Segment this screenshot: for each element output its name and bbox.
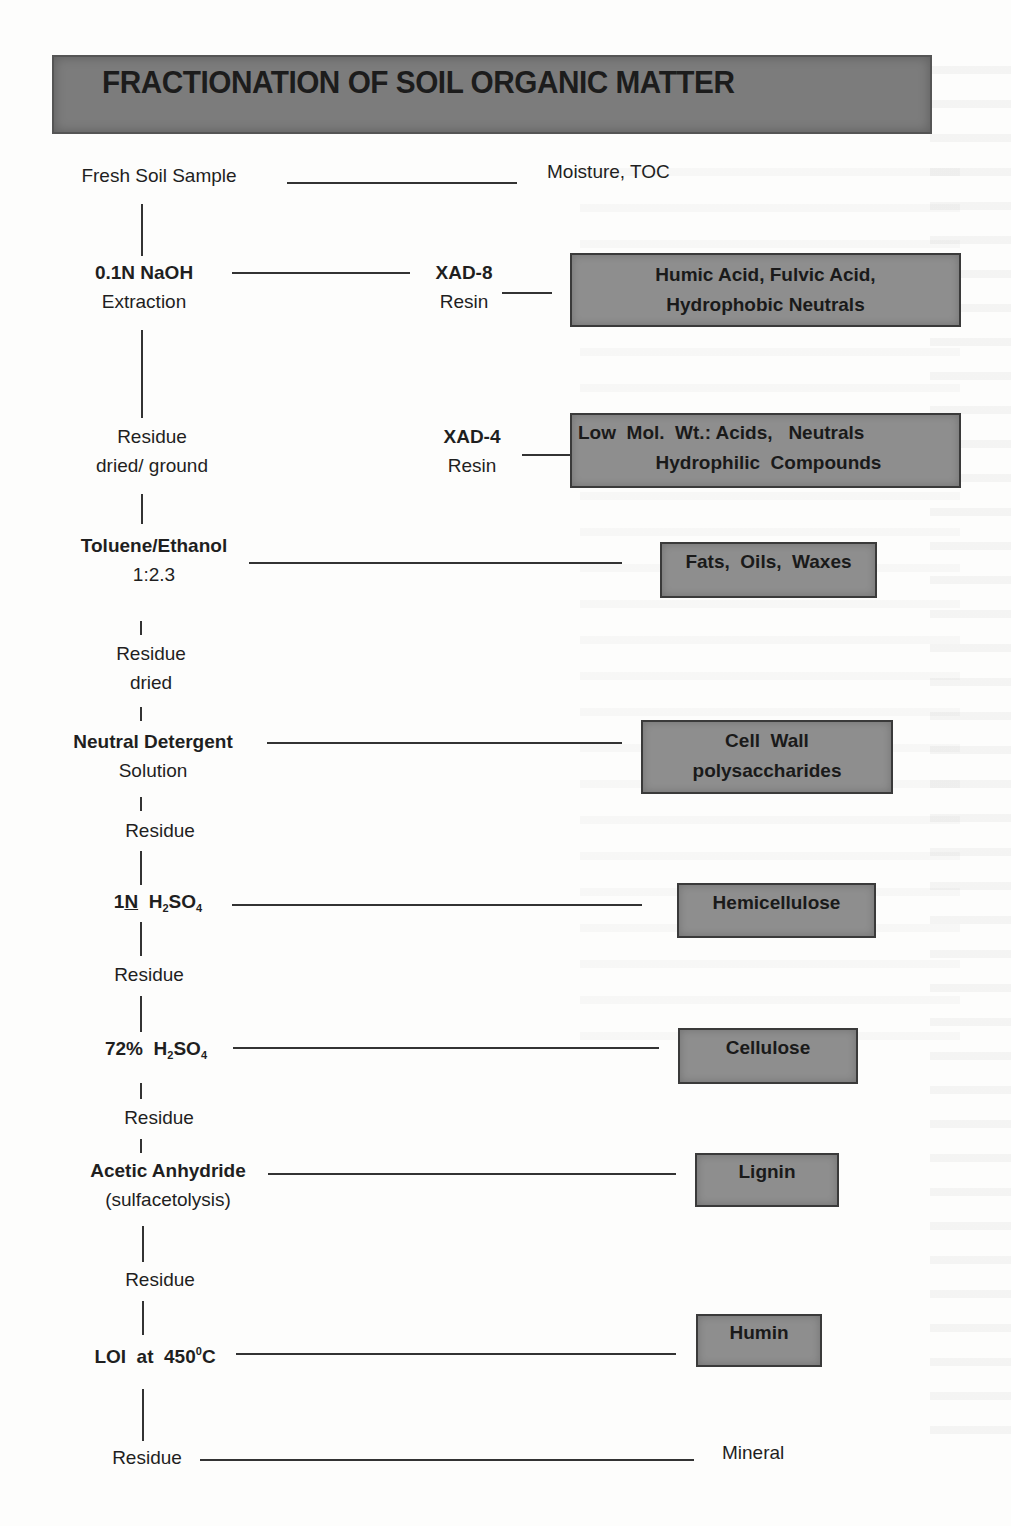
fraction-label: Humic Acid, Fulvic Acid,	[572, 260, 959, 290]
fraction-label: Hydrophobic Neutrals	[572, 290, 959, 320]
fraction-cell-wall: Cell Wall polysaccharides	[641, 720, 893, 794]
label-part: 4	[196, 902, 202, 914]
flow-line	[140, 1139, 142, 1153]
flow-line	[141, 330, 143, 418]
flow-line	[140, 707, 142, 721]
step-label: Toluene/Ethanol	[81, 531, 227, 560]
fraction-label: Cellulose	[680, 1033, 856, 1063]
fraction-label: Fats, Oils, Waxes	[662, 547, 875, 577]
step-residue: Residue	[125, 1265, 195, 1294]
fraction-hemicellulose: Hemicellulose	[677, 883, 876, 938]
step-sublabel: Solution	[73, 756, 232, 785]
connector-line	[233, 1047, 659, 1049]
fraction-label: Lignin	[697, 1157, 837, 1187]
step-residue: Residue	[124, 1103, 194, 1132]
flow-line	[140, 922, 142, 956]
label-part: 1	[114, 891, 125, 912]
step-label: 1N H2SO4	[114, 891, 202, 912]
flow-line	[140, 996, 142, 1032]
connector-line	[236, 1353, 676, 1355]
step-acetic-anhydride: Acetic Anhydride (sulfacetolysis)	[90, 1156, 246, 1214]
fraction-label: Hemicellulose	[679, 888, 874, 918]
step-loi-450c: LOI at 4500C	[94, 1337, 215, 1371]
step-toluene-ethanol: Toluene/Ethanol 1:2.3	[81, 531, 227, 589]
flow-line	[142, 1226, 144, 1262]
step-residue: Residue	[125, 816, 195, 845]
label-part: SO	[173, 1038, 200, 1059]
page-title: FRACTIONATION OF SOIL ORGANIC MATTER	[102, 65, 734, 101]
resin-sublabel: Resin	[435, 287, 492, 316]
flow-line	[141, 494, 143, 524]
flow-line	[140, 851, 142, 885]
step-label: Residue	[116, 639, 186, 668]
resin-sublabel: Resin	[443, 451, 500, 480]
title-banner: FRACTIONATION OF SOIL ORGANIC MATTER	[52, 55, 932, 134]
flow-line	[140, 621, 142, 635]
fraction-humic-fulvic: Humic Acid, Fulvic Acid, Hydrophobic Neu…	[570, 253, 961, 327]
label-part: 4	[201, 1049, 207, 1061]
step-sublabel: Extraction	[95, 287, 193, 316]
connector-line	[267, 742, 622, 744]
connector-line	[287, 182, 517, 184]
step-label: Residue	[125, 1265, 195, 1294]
flow-line	[140, 1083, 142, 1099]
label-part: SO	[169, 891, 196, 912]
output-mineral: Mineral	[722, 1438, 784, 1467]
step-label: 0.1N NaOH	[95, 258, 193, 287]
connector-line	[249, 562, 622, 564]
step-label: Residue	[125, 816, 195, 845]
resin-xad8: XAD-8 Resin	[435, 258, 492, 316]
step-residue-dried: Residue dried	[116, 639, 186, 697]
fraction-label: Cell Wall	[643, 726, 891, 756]
fraction-label: Low Mol. Wt.: Acids, Neutrals	[578, 418, 959, 448]
step-label: Residue	[124, 1103, 194, 1132]
label-part: LOI at 450	[94, 1346, 195, 1367]
connector-line	[268, 1173, 676, 1175]
fraction-fats-oils-waxes: Fats, Oils, Waxes	[660, 542, 877, 598]
label-part: H	[149, 891, 163, 912]
fraction-cellulose: Cellulose	[678, 1028, 858, 1084]
step-label: Residue	[96, 422, 208, 451]
connector-line	[502, 292, 552, 294]
step-sublabel: 1:2.3	[81, 560, 227, 589]
fraction-humin: Humin	[696, 1314, 822, 1367]
step-label: Fresh Soil Sample	[81, 165, 236, 186]
resin-label: XAD-8	[435, 258, 492, 287]
flow-line	[142, 1301, 144, 1335]
step-fresh-soil-sample: Fresh Soil Sample	[81, 161, 236, 190]
step-label: Acetic Anhydride	[90, 1156, 246, 1185]
connector-line	[232, 904, 642, 906]
fraction-lignin: Lignin	[695, 1153, 839, 1207]
step-label: Residue	[114, 960, 184, 989]
step-label: Residue	[112, 1443, 182, 1472]
fraction-low-mol-wt: Low Mol. Wt.: Acids, Neutrals Hydrophili…	[570, 413, 961, 488]
resin-xad4: XAD-4 Resin	[443, 422, 500, 480]
label-part: H	[154, 1038, 168, 1059]
step-residue-final: Residue	[112, 1443, 182, 1472]
label-part: N	[124, 891, 138, 912]
step-72pct-h2so4: 72% H2SO4	[105, 1034, 207, 1070]
label-part: C	[202, 1346, 216, 1367]
output-moisture-toc: Moisture, TOC	[547, 157, 670, 186]
label-part: 72%	[105, 1038, 154, 1059]
step-sublabel: (sulfacetolysis)	[90, 1185, 246, 1214]
step-residue: Residue	[114, 960, 184, 989]
step-label: 72% H2SO4	[105, 1038, 207, 1059]
step-label: Neutral Detergent	[73, 727, 232, 756]
step-neutral-detergent: Neutral Detergent Solution	[73, 727, 232, 785]
step-1n-h2so4: 1N H2SO4	[114, 887, 202, 923]
step-sublabel: dried	[116, 668, 186, 697]
flow-line	[141, 204, 143, 256]
step-label: LOI at 4500C	[94, 1346, 215, 1367]
step-sublabel: dried/ ground	[96, 451, 208, 480]
step-naoh-extraction: 0.1N NaOH Extraction	[95, 258, 193, 316]
connector-line	[232, 272, 410, 274]
resin-label: XAD-4	[443, 422, 500, 451]
connector-line	[522, 454, 572, 456]
fraction-label: polysaccharides	[643, 756, 891, 786]
flow-line	[140, 797, 142, 811]
fraction-label: Hydrophilic Compounds	[578, 448, 959, 478]
fraction-label: Humin	[698, 1318, 820, 1348]
connector-line	[200, 1459, 694, 1461]
step-residue-dried-ground: Residue dried/ ground	[96, 422, 208, 480]
